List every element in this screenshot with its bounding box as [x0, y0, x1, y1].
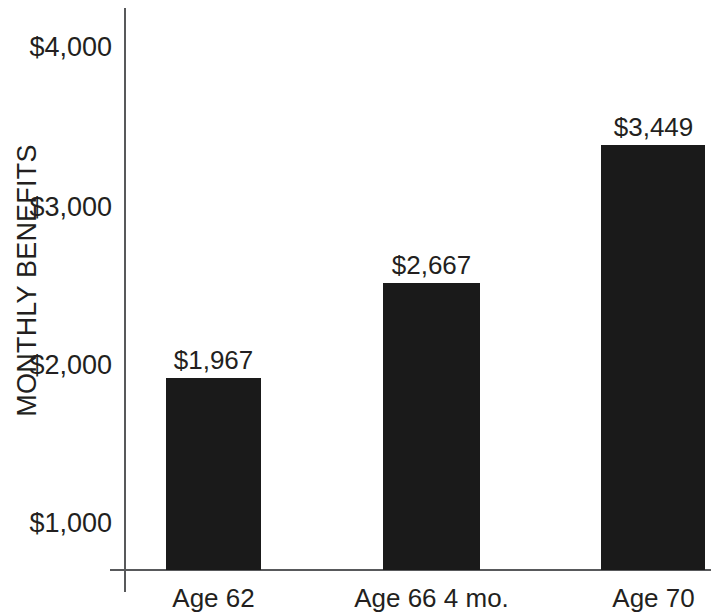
y-tick-label-4000: $4,000: [0, 32, 112, 63]
y-tick-label-text: $3,000: [0, 192, 112, 223]
y-tick-label-text: $4,000: [0, 32, 112, 63]
x-tick-label-age-66-4-mo: Age 66 4 mo.: [352, 583, 511, 614]
bar-age-62: [166, 378, 261, 570]
bar-age-70: [601, 145, 705, 570]
x-tick-label-age-62: Age 62: [148, 583, 279, 614]
y-tick-label-3000: $3,000: [0, 192, 112, 223]
y-tick-label-text: $2,000: [0, 350, 112, 381]
y-axis-title: MONTHLY BENEFITS: [12, 126, 43, 436]
bar-value-label-age-66-4-mo: $2,667: [366, 250, 497, 281]
x-tick-label-age-70: Age 70: [588, 583, 718, 614]
bar-value-label-age-62: $1,967: [148, 345, 279, 376]
y-tick-label-2000: $2,000: [0, 350, 112, 381]
bar-chart: MONTHLY BENEFITS $4,000 $3,000 $2,000 $1…: [0, 0, 718, 614]
y-tick-label-1000: $1,000: [0, 508, 112, 539]
x-axis-line: [110, 569, 711, 571]
bar-age-66-4-mo: [383, 283, 480, 570]
y-axis-line: [124, 8, 126, 592]
bar-value-label-age-70: $3,449: [588, 112, 718, 143]
y-tick-label-text: $1,000: [0, 508, 112, 539]
